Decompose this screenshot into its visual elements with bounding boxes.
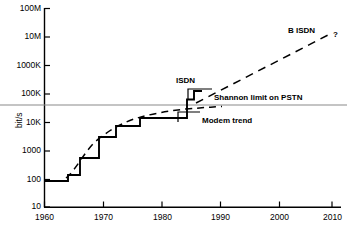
chart-figure: bit/s 100M 10M 1000K 100K 10K 1000 100 1… (0, 0, 347, 237)
x-tick-label-1960: 1960 (25, 213, 64, 222)
x-tick-label-1980: 1980 (143, 213, 182, 222)
y-tick-label-1000K: 1000K (0, 61, 41, 70)
y-tick-label-100K: 100K (0, 89, 41, 98)
x-tick-label-2000: 2000 (260, 213, 299, 222)
y-tick-label-10K: 10K (0, 118, 41, 127)
x-tick-label-1990: 1990 (201, 213, 240, 222)
y-tick-label-10M: 10M (0, 32, 41, 41)
annotation-b-isdn: B ISDN (288, 27, 315, 35)
y-tick-label-10: 10 (0, 202, 41, 211)
x-tick-label-2010: 2010 (313, 213, 347, 222)
chart-canvas (0, 0, 347, 237)
x-tick-label-1970: 1970 (84, 213, 123, 222)
x-axis-ticks (45, 202, 333, 208)
y-tick-label-100M: 100M (0, 4, 41, 13)
annotation-shannon-limit: Shannon limit on PSTN (214, 94, 302, 102)
y-axis-ticks (45, 9, 51, 208)
annotation-modem-trend: Modem trend (202, 117, 252, 125)
modem-trend-leader (178, 112, 200, 122)
annotation-question-mark: ? (333, 31, 338, 39)
y-tick-label-100: 100 (0, 175, 41, 184)
axis-lines (44, 8, 341, 208)
annotation-isdn: ISDN (176, 77, 195, 85)
y-tick-label-1000: 1000 (0, 146, 41, 155)
